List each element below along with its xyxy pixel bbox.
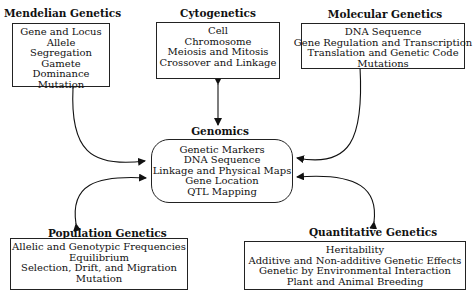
genomics-box: Genetic Markers DNA Sequence Linkage and… bbox=[151, 139, 293, 203]
cytogenetics-item: Cell bbox=[208, 26, 228, 37]
molecular-item: Translation and Genetic Code bbox=[307, 48, 458, 59]
quantitative-item: Plant and Animal Breeding bbox=[287, 277, 424, 288]
population-genetics-box: Allelic and Genotypic Frequencies Equili… bbox=[10, 238, 188, 290]
arrow-population-genomics bbox=[75, 178, 146, 224]
genomics-title: Genomics bbox=[180, 125, 260, 137]
quantitative-item: Genetic by Environmental Interaction bbox=[259, 266, 451, 277]
mendelian-genetics-box: Gene and Locus Allele Segregation Gamete… bbox=[12, 23, 110, 87]
cytogenetics-box: Cell Chromosome Meiosis and Mitosis Cros… bbox=[156, 22, 280, 79]
molecular-genetics-box: DNA Sequence Gene Regulation and Transcr… bbox=[301, 23, 465, 69]
genomics-item: QTL Mapping bbox=[187, 187, 257, 198]
quantitative-genetics-title: Quantitative Genetics bbox=[298, 226, 448, 238]
arrow-quantitative-genomics bbox=[297, 176, 375, 222]
molecular-genetics-title: Molecular Genetics bbox=[320, 8, 450, 20]
mendelian-item: Dominance bbox=[32, 69, 89, 80]
mendelian-genetics-title: Mendelian Genetics bbox=[4, 7, 119, 19]
arrow-molecular-genomics bbox=[297, 67, 361, 160]
cytogenetics-item: Crossover and Linkage bbox=[160, 58, 277, 69]
population-item: Mutation bbox=[76, 274, 122, 285]
cytogenetics-title: Cytogenetics bbox=[158, 7, 278, 19]
mendelian-item: Mutation bbox=[38, 80, 84, 91]
cytogenetics-item: Meiosis and Mitosis bbox=[168, 47, 269, 58]
molecular-item: DNA Sequence bbox=[345, 27, 422, 38]
quantitative-item: Heritability bbox=[326, 245, 384, 256]
population-item: Allelic and Genotypic Frequencies bbox=[12, 242, 186, 253]
population-item: Selection, Drift, and Migration bbox=[21, 263, 177, 274]
quantitative-genetics-box: Heritability Additive and Non-additive G… bbox=[244, 241, 466, 290]
mendelian-item: Gene and Locus bbox=[20, 27, 101, 38]
arrow-mendelian-genomics bbox=[73, 88, 145, 162]
molecular-item: Mutations bbox=[357, 59, 408, 70]
mendelian-item: Segregation bbox=[30, 48, 92, 59]
